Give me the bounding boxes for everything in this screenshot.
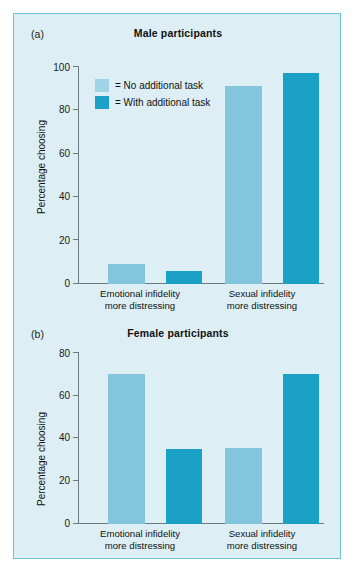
bar-a-sexual-with-task xyxy=(283,73,319,285)
panel-a-tick-label-20: 20 xyxy=(59,235,70,246)
legend: = No additional task = With additional t… xyxy=(95,78,210,112)
bar-a-emotional-no-task xyxy=(108,264,145,284)
panel-b-tick-label-40: 40 xyxy=(59,432,70,443)
panel-b-y-axis-label: Percentage choosing xyxy=(36,412,47,506)
panel-b-y-axis xyxy=(78,352,79,524)
panel-a-tick-label-40: 40 xyxy=(59,191,70,202)
panel-a-y-axis-label: Percentage choosing xyxy=(36,120,47,214)
panel-a-title: Male participants xyxy=(14,27,342,39)
panel-b-tick-0 xyxy=(73,523,78,524)
panel-b-tick-label-80: 80 xyxy=(59,348,70,359)
panel-b-title: Female participants xyxy=(14,327,342,339)
panel-b-xlabel-emotional-line1: Emotional infidelity xyxy=(78,528,202,540)
panel-a-tick-20 xyxy=(73,239,78,240)
panel-a-tick-60 xyxy=(73,153,78,154)
legend-swatch-icon-dark xyxy=(95,96,109,109)
panel-b-tick-label-20: 20 xyxy=(59,475,70,486)
panel-a-tick-label-80: 80 xyxy=(59,104,70,115)
legend-swatch-icon-light xyxy=(95,79,109,92)
panel-a-y-axis xyxy=(78,66,79,284)
figure-container: (a) Male participants Percentage choosin… xyxy=(13,13,341,559)
panel-b-plot-area: 0 20 40 60 80 xyxy=(78,352,324,524)
bar-b-emotional-no-task xyxy=(108,374,145,525)
panel-a-tick-40 xyxy=(73,196,78,197)
panel-a-tick-0 xyxy=(73,283,78,284)
legend-item-no-additional-task: = No additional task xyxy=(95,78,210,92)
panel-b-xlabel-sexual-line2: more distressing xyxy=(200,540,324,552)
panel-a-tick-label-0: 0 xyxy=(64,278,70,289)
panel-b-tick-80 xyxy=(73,352,78,353)
bar-b-sexual-no-task xyxy=(225,448,262,524)
legend-label-with-additional-task: = With additional task xyxy=(115,97,210,108)
legend-label-no-additional-task: = No additional task xyxy=(115,80,203,91)
panel-a-tick-80 xyxy=(73,109,78,110)
panel-a-tick-label-60: 60 xyxy=(59,148,70,159)
panel-b-tick-label-60: 60 xyxy=(59,390,70,401)
panel-b-tick-60 xyxy=(73,395,78,396)
panel-b-tick-label-0: 0 xyxy=(64,518,70,529)
panel-a-tick-label-100: 100 xyxy=(53,62,70,73)
panel-a-plot-area: 0 20 40 60 80 100 = No additional task =… xyxy=(78,66,324,284)
panel-male-participants: (a) Male participants Percentage choosin… xyxy=(14,14,342,288)
panel-b-xlabel-sexual: Sexual infidelity more distressing xyxy=(200,528,324,552)
panel-a-tick-100 xyxy=(73,66,78,67)
bar-b-sexual-with-task xyxy=(283,374,319,525)
legend-item-with-additional-task: = With additional task xyxy=(95,95,210,109)
panel-b-tick-20 xyxy=(73,480,78,481)
panel-female-participants: (b) Female participants Percentage choos… xyxy=(14,288,342,560)
panel-b-xlabel-emotional-line2: more distressing xyxy=(78,540,202,552)
bar-b-emotional-with-task xyxy=(166,449,202,524)
bar-a-sexual-no-task xyxy=(225,86,262,284)
bar-a-emotional-with-task xyxy=(166,271,202,284)
panel-b-xlabel-sexual-line1: Sexual infidelity xyxy=(200,528,324,540)
panel-b-tick-40 xyxy=(73,437,78,438)
panel-b-xlabel-emotional: Emotional infidelity more distressing xyxy=(78,528,202,552)
